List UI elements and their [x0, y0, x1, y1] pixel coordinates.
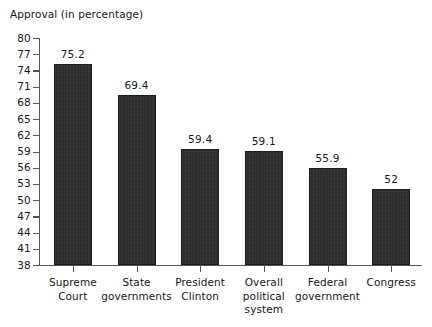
y-axis-tick-label-wrap: 62 — [0, 130, 31, 141]
x-axis-line — [39, 265, 422, 266]
x-axis-tick — [264, 266, 265, 272]
x-axis-tick — [137, 266, 138, 272]
bar-value-label: 52 — [360, 174, 422, 185]
y-axis-tick-label-wrap: 50 — [0, 195, 31, 206]
x-axis-category-label-line: Federal — [292, 276, 364, 290]
y-axis-tick-label-wrap: 68 — [0, 97, 31, 108]
y-axis-tick-label: 77 — [1, 49, 31, 60]
y-axis-tick-label-wrap: 77 — [0, 49, 31, 60]
x-axis-category-label: Federalgovernment — [292, 276, 364, 303]
y-axis-tick-label: 50 — [1, 195, 31, 206]
y-axis-tick-label-wrap: 56 — [0, 162, 31, 173]
y-axis-tick-label-wrap: 59 — [0, 146, 31, 157]
x-axis-category-label: PresidentClinton — [164, 276, 236, 303]
x-axis-category-label-line: Congress — [355, 276, 427, 290]
x-axis-category-label: SupremeCourt — [37, 276, 109, 303]
x-axis-category-label-line: government — [292, 290, 364, 304]
chart-title: Approval (in percentage) — [10, 8, 143, 21]
x-axis-category-label-line: State — [101, 276, 173, 290]
x-axis-category-label: Overallpoliticalsystem — [228, 276, 300, 317]
x-axis-category-label-line: political — [228, 290, 300, 304]
y-axis-tick-label: 62 — [1, 130, 31, 141]
x-axis-tick — [200, 266, 201, 272]
bar — [245, 151, 283, 265]
bar-value-label: 75.2 — [42, 49, 104, 60]
bar — [181, 149, 219, 265]
bar-value-label: 59.1 — [233, 136, 295, 147]
x-axis-category-label: Stategovernments — [101, 276, 173, 303]
y-axis-tick-label: 80 — [1, 33, 31, 44]
x-axis-category-label-line: Clinton — [164, 290, 236, 304]
y-axis-tick-label: 44 — [1, 227, 31, 238]
bar — [372, 189, 410, 265]
bar — [118, 95, 156, 265]
y-axis-tick-label: 38 — [1, 260, 31, 271]
x-axis-category-label-line: Supreme — [37, 276, 109, 290]
y-axis-tick-label-wrap: 38 — [0, 260, 31, 271]
x-axis-category-label-line: President — [164, 276, 236, 290]
y-axis-tick-label-wrap: 65 — [0, 114, 31, 125]
plot-area — [39, 38, 421, 265]
y-axis-tick-label: 53 — [1, 178, 31, 189]
x-axis-category-label-line: governments — [101, 290, 173, 304]
y-axis-tick-label-wrap: 47 — [0, 211, 31, 222]
bar — [54, 64, 92, 265]
y-axis-tick-label: 65 — [1, 114, 31, 125]
x-axis-category-label-line: Overall — [228, 276, 300, 290]
y-axis-tick-label: 74 — [1, 65, 31, 76]
x-axis-category-label: Congress — [355, 276, 427, 290]
bar-chart: Approval (in percentage) 384144475053565… — [0, 0, 432, 327]
y-axis-tick-label-wrap: 80 — [0, 33, 31, 44]
y-axis-tick-label-wrap: 53 — [0, 178, 31, 189]
y-axis-tick-label-wrap: 71 — [0, 81, 31, 92]
y-axis-tick-label: 68 — [1, 97, 31, 108]
y-axis-tick-label: 56 — [1, 162, 31, 173]
x-axis-tick — [328, 266, 329, 272]
y-axis-tick-label: 59 — [1, 146, 31, 157]
y-axis-tick — [33, 265, 39, 266]
x-axis-category-label-line: system — [228, 303, 300, 317]
x-axis-tick — [391, 266, 392, 272]
y-axis-tick-label-wrap: 41 — [0, 243, 31, 254]
bar-value-label: 59.4 — [169, 134, 231, 145]
x-axis-tick — [73, 266, 74, 272]
x-axis-category-label-line: Court — [37, 290, 109, 304]
bar-value-label: 69.4 — [106, 80, 168, 91]
y-axis-tick-label-wrap: 44 — [0, 227, 31, 238]
y-axis-tick-label: 47 — [1, 211, 31, 222]
y-axis-tick-label: 41 — [1, 243, 31, 254]
bar-value-label: 55.9 — [297, 153, 359, 164]
y-axis-tick-label: 71 — [1, 81, 31, 92]
y-axis-tick-label-wrap: 74 — [0, 65, 31, 76]
bar — [309, 168, 347, 265]
